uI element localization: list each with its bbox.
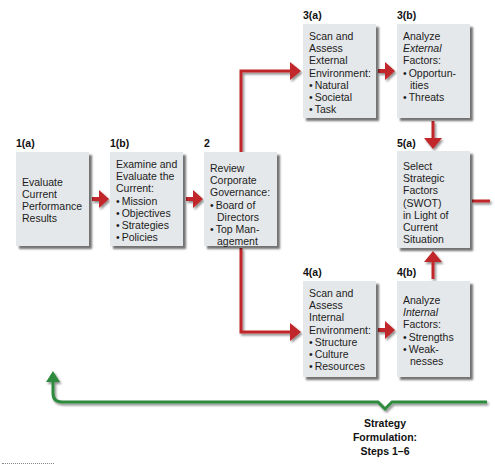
step-4a-bullet-culture: Culture [309,348,372,360]
step-4a-text-2: Assess [309,299,372,311]
step-1a-text-4: Results [22,212,85,224]
step-4a-text-3: Internal [309,311,372,323]
step-3a-bullet-task: Task [309,103,372,115]
step-1b-bullet-mission: Mission [116,195,179,207]
step-1b-label: 1(b) [110,137,129,149]
step-5a-text-4: (SWOT) [403,197,466,209]
step-4b-box: Analyze Internal Factors: Strengths Weak… [397,281,470,377]
step-2-bullet-top-management: Top Man- [210,223,273,235]
step-1a-label: 1(a) [16,137,35,149]
step-5a-text-1: Select [403,160,466,172]
caption-line-1: Strategy [335,416,435,430]
arrow-2-to-4a [241,248,301,341]
step-1b-bullet-objectives: Objectives [116,207,179,219]
arrow-4a-to-4b [378,321,395,339]
arrow-2-to-3a [241,62,301,152]
step-5a-text-5: in Light of [403,209,466,221]
step-3b-text-3: Factors: [403,54,466,66]
step-4b-text-2: Internal [403,306,466,318]
step-5a-text-6: Current [403,221,466,233]
caption-line-2: Formulation: [335,430,435,444]
step-3a-text-2: Assess [309,42,372,54]
footnote-divider [2,463,54,464]
step-3b-text-2: External [403,42,466,54]
step-1b-box: Examine and Evaluate the Current: Missio… [110,152,183,246]
step-3a-text-4: Environment: [309,67,372,79]
step-1a-text-3: Performance [22,200,85,212]
step-2-text-2: Corporate [210,174,273,186]
step-1b-text-1: Examine and [116,158,179,170]
step-3a-box: Scan and Assess External Environment: Na… [303,24,376,118]
step-3a-bullet-natural: Natural [309,79,372,91]
strategy-formulation-caption: Strategy Formulation: Steps 1–6 [335,416,435,458]
step-1a-text-2: Current [22,188,85,200]
step-4b-bullet-strengths: Strengths [403,331,466,343]
arrow-1a-to-1b [92,190,109,208]
step-4a-label: 4(a) [303,266,322,278]
step-2-box: Review Corporate Governance: Board of Di… [204,152,277,246]
step-4a-text-4: Environment: [309,324,372,336]
step-5a-text-7: Situation [403,233,466,245]
step-2-bullet-board-cont: Directors [210,211,273,223]
step-3b-bullet-threats: Threats [403,91,466,103]
step-1b-bullet-policies: Policies [116,231,179,243]
step-2-label: 2 [204,137,210,149]
step-1b-text-2: Evaluate the [116,170,179,182]
step-3a-bullet-societal: Societal [309,91,372,103]
step-4b-bullet-weaknesses-cont: nesses [403,355,466,367]
arrow-3a-to-3b [378,62,395,80]
step-5a-box: Select Strategic Factors (SWOT) in Light… [397,151,470,248]
step-4b-bullet-weaknesses: Weak- [403,343,466,355]
step-3b-box: Analyze External Factors: Opportun- itie… [397,24,470,118]
step-3b-label: 3(b) [397,9,416,21]
step-4b-text-1: Analyze [403,294,466,306]
step-4a-bullet-resources: Resources [309,360,372,372]
step-1a-text-1: Evaluate [22,176,85,188]
step-4b-label: 4(b) [397,266,416,278]
step-3a-text-1: Scan and [309,30,372,42]
step-1b-bullet-strategies: Strategies [116,219,179,231]
step-2-bullet-top-management-cont: agement [210,235,273,247]
step-3a-label: 3(a) [303,9,322,21]
step-3a-text-3: External [309,54,372,66]
step-5a-label: 5(a) [397,137,416,149]
step-1a-box: Evaluate Current Performance Results [16,152,89,246]
step-3b-text-1: Analyze [403,30,466,42]
strategy-formulation-diagram: 1(a) Evaluate Current Performance Result… [0,0,495,466]
step-5a-text-3: Factors [403,184,466,196]
step-3b-bullet-opportunities: Opportun- [403,67,466,79]
arrow-4b-to-5a [424,251,442,279]
step-2-text-3: Governance: [210,186,273,198]
step-2-text-1: Review [210,162,273,174]
step-4a-box: Scan and Assess Internal Environment: St… [303,281,376,377]
arrow-1b-to-2 [186,190,203,208]
step-3b-bullet-opportunities-cont: ities [403,79,466,91]
step-4b-text-3: Factors: [403,318,466,330]
step-5a-text-2: Strategic [403,172,466,184]
step-1b-text-3: Current: [116,182,179,194]
step-2-bullet-board: Board of [210,199,273,211]
step-4a-bullet-structure: Structure [309,336,372,348]
arrow-3b-to-5a [424,121,442,149]
caption-line-3: Steps 1–6 [335,444,435,458]
step-4a-text-1: Scan and [309,287,372,299]
